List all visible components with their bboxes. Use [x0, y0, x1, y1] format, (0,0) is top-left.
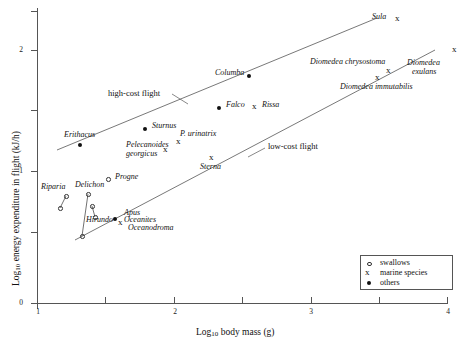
label-sterna: Sterna	[200, 162, 221, 171]
legend-marker-marine: x	[365, 268, 370, 277]
y-tick	[31, 50, 37, 51]
x-axis-title-log: Log	[196, 327, 211, 337]
label-oceanodroma: Oceanodroma	[128, 223, 173, 232]
data-point-riparia-lower	[58, 206, 63, 211]
legend-label-marine: marine species	[380, 268, 427, 277]
y-axis-title-rest: energy expenditure in flight (kJ/h)	[11, 131, 21, 264]
y-tick	[31, 171, 37, 172]
leader-line-low-cost	[248, 148, 265, 157]
x-tick	[311, 297, 312, 304]
x-tick-label: 1	[30, 307, 46, 316]
label-erithacus: Erithacus	[64, 130, 95, 139]
label-sturnus: Sturnus	[152, 121, 176, 130]
data-point-diomedea-immutabilis: x	[375, 73, 380, 82]
legend-marker-swallows	[367, 262, 372, 267]
label-progne: Progne	[115, 172, 138, 181]
y-tick	[31, 110, 37, 111]
data-point-erithacus	[78, 143, 82, 147]
x-axis-title: Log10 body mass (g)	[196, 327, 275, 338]
data-point-progne	[106, 177, 111, 182]
legend-box: swallows x marine species others	[360, 255, 453, 290]
label-rissa: Rissa	[262, 100, 279, 109]
trend-line-high-cost	[57, 18, 377, 150]
data-point-falco	[217, 106, 221, 110]
label-riparia: Riparia	[41, 182, 65, 191]
data-point-sula: x	[395, 14, 400, 23]
data-point-hirundo-lower	[80, 234, 85, 239]
x-tick-label: 4	[440, 307, 456, 316]
label-diomedea-immutabilis: Diomedea immutabilis	[340, 82, 413, 91]
label-pelecanoides-line1: Pelecanoides	[126, 140, 169, 149]
legend-label-others: others	[380, 278, 400, 287]
annotation-low-cost-flight: low-cost flight	[268, 141, 318, 151]
data-point-oceanites-oceanodroma: x	[118, 218, 123, 227]
y-axis-title-log: Log	[11, 271, 21, 286]
x-tick	[242, 297, 243, 304]
data-point-columba	[247, 74, 251, 78]
data-point-diomedea-exulans: x	[452, 45, 457, 54]
label-columba: Columba	[215, 68, 244, 77]
legend-marker-others	[367, 281, 371, 285]
label-hirundo: Hirundo	[86, 215, 113, 224]
y-tick-label: 2	[14, 45, 28, 54]
data-point-delichon-upper	[86, 192, 91, 197]
y-axis-title: Log10 energy expenditure in flight (kJ/h…	[11, 131, 22, 286]
data-point-p-urinatrix: x	[176, 137, 181, 146]
annotation-high-cost-flight: high-cost flight	[108, 88, 160, 98]
x-tick	[379, 297, 380, 304]
label-falco: Falco	[226, 100, 245, 109]
plot-overlay-lines	[0, 0, 461, 345]
data-point-apus	[113, 217, 117, 221]
y-axis-title-sub: 10	[14, 264, 22, 271]
x-tick	[174, 297, 175, 304]
x-axis-title-rest: body mass (g)	[218, 327, 274, 337]
data-point-diomedea-chrysostoma: x	[386, 66, 391, 75]
label-diomedea-chrysostoma: Diomedea chrysostoma	[310, 57, 385, 66]
scatter-plot-figure: 0 1 2 1 2 3 4 Log10 energy expenditure i…	[0, 0, 461, 345]
label-pelecanoides-line2: georgicus	[126, 149, 157, 158]
x-tick-label: 2	[167, 307, 183, 316]
label-diomedea-exulans-line2: exulans	[412, 67, 436, 76]
x-tick	[105, 297, 106, 304]
x-tick-label: 3	[303, 307, 319, 316]
y-axis-line	[37, 8, 38, 304]
label-p-urinatrix: P. urinatrix	[180, 129, 216, 138]
legend-label-swallows: swallows	[380, 258, 410, 267]
data-point-sterna: x	[209, 153, 214, 162]
data-point-riparia-upper	[64, 194, 69, 199]
label-diomedea-exulans-line1: Diomedea	[407, 58, 440, 67]
data-point-rissa: x	[252, 102, 257, 111]
y-tick	[31, 232, 37, 233]
x-tick	[447, 297, 448, 304]
label-sula: Sula	[372, 12, 386, 21]
y-tick-label: 0	[14, 298, 28, 307]
data-point-delichon-lower	[90, 204, 95, 209]
label-delichon: Delichon	[75, 180, 104, 189]
data-point-sturnus	[143, 127, 147, 131]
y-tick	[31, 11, 37, 12]
leader-line-high-cost	[172, 94, 188, 104]
